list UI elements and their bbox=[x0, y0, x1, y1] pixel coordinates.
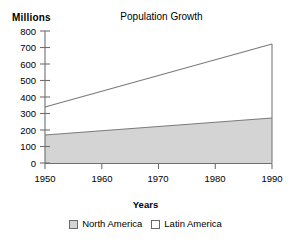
x-tick-label-1960: 1960 bbox=[82, 174, 122, 184]
legend-swatch-latin-america bbox=[151, 220, 160, 229]
legend-swatch-north-america bbox=[69, 220, 78, 229]
x-axis-ticks bbox=[45, 164, 272, 170]
x-tick-label-1990: 1990 bbox=[252, 174, 291, 184]
population-growth-chart: Millions Population Growth 800 700 600 5… bbox=[0, 0, 291, 246]
legend-label-north-america: North America bbox=[82, 219, 142, 229]
legend-item-north-america: North America bbox=[69, 219, 142, 229]
legend-label-latin-america: Latin America bbox=[164, 219, 222, 229]
legend-item-latin-america: Latin America bbox=[151, 219, 222, 229]
x-tick-label-1950: 1950 bbox=[25, 174, 65, 184]
x-tick-label-1970: 1970 bbox=[138, 174, 178, 184]
chart-legend: North America Latin America bbox=[0, 219, 291, 229]
x-axis-title: Years bbox=[0, 199, 291, 210]
x-tick-label-1980: 1980 bbox=[195, 174, 235, 184]
